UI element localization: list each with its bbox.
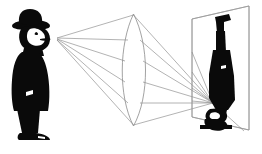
- inverted-hat-brim: [200, 125, 232, 129]
- inverted-coat: [209, 50, 235, 110]
- lens-projection-figure: Lens projection diagram Bearded man in b…: [0, 0, 262, 154]
- overcoat: [12, 52, 50, 111]
- inverted-legs: [216, 31, 226, 52]
